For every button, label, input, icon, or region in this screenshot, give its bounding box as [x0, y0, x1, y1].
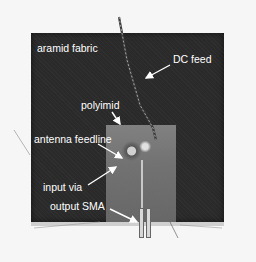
antenna-photo: aramid fabric DC feed polyimid antenna f… — [0, 0, 256, 262]
dc-feed-arrow — [146, 65, 170, 78]
antenna-feedline-arrow — [98, 144, 122, 158]
loose-thread — [170, 222, 178, 238]
output-sma-arrow — [110, 209, 137, 222]
loose-thread — [34, 222, 100, 228]
dc-feed-wire — [119, 17, 156, 140]
label-antenna-feedline: antenna feedline — [34, 134, 112, 145]
loose-thread — [14, 130, 30, 155]
polyimid-arrow — [112, 112, 120, 124]
input-via-arrow — [88, 167, 116, 185]
label-aramid-fabric: aramid fabric — [37, 43, 98, 54]
annotation-overlay — [0, 0, 256, 262]
label-input-via: input via — [43, 182, 82, 193]
label-dc-feed: DC feed — [173, 54, 212, 65]
loose-thread — [180, 225, 222, 228]
label-output-sma: output SMA — [50, 201, 105, 212]
label-polyimid: polyimid — [81, 100, 120, 111]
